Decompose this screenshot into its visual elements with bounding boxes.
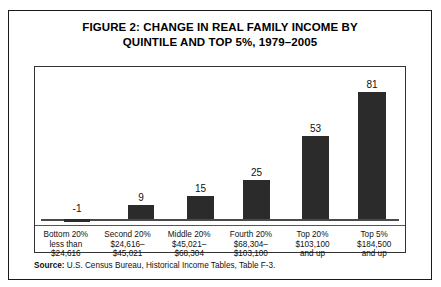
- category-line: $68,304–: [220, 240, 282, 250]
- category-line: $103,100: [282, 240, 344, 250]
- category-line: less than: [35, 240, 97, 250]
- category-label-top-20: Top 20% $103,100 and up: [282, 230, 344, 259]
- category-line: $103,100: [220, 249, 282, 259]
- figure-title-line-2: QUINTILE AND TOP 5%, 1979–2005: [9, 35, 431, 50]
- category-line: $24,616–: [97, 240, 159, 250]
- category-label-band: Bottom 20% less than $24,616 Second 20% …: [35, 226, 405, 252]
- bar-value-middle-20: 15: [187, 183, 214, 194]
- source-note: Source: U.S. Census Bureau, Historical I…: [34, 260, 275, 271]
- category-line: and up: [343, 249, 405, 259]
- bar-top-5: [358, 92, 386, 219]
- category-line: $184,500: [343, 240, 405, 250]
- figure-title: FIGURE 2: CHANGE IN REAL FAMILY INCOME B…: [9, 20, 431, 50]
- bar-middle-20: [187, 196, 214, 219]
- bar-value-top-20: 53: [302, 123, 329, 134]
- source-label: Source:: [34, 261, 64, 270]
- bar-bottom-20: [64, 219, 90, 222]
- category-line: Bottom 20%: [35, 230, 97, 240]
- category-line: $45,021: [97, 249, 159, 259]
- category-label-top-5: Top 5% $184,500 and up: [343, 230, 405, 259]
- source-text: U.S. Census Bureau, Historical Income Ta…: [64, 261, 275, 270]
- bar-value-bottom-20: -1: [64, 203, 90, 214]
- bar-top-20: [302, 136, 329, 219]
- plot-frame: -1 9 15 25 53 81 Bottom 20% less than $2…: [34, 66, 406, 253]
- category-line: Fourth 20%: [220, 230, 282, 240]
- bar-fourth-20: [243, 180, 270, 219]
- category-line: Second 20%: [97, 230, 159, 240]
- category-line: $45,021–: [158, 240, 220, 250]
- bar-value-fourth-20: 25: [243, 167, 270, 178]
- x-axis-baseline: [41, 219, 399, 221]
- bar-second-20: [128, 205, 154, 219]
- category-line: $24,616: [35, 249, 97, 259]
- category-line: Top 5%: [343, 230, 405, 240]
- category-label-middle-20: Middle 20% $45,021– $68,304: [158, 230, 220, 259]
- category-label-fourth-20: Fourth 20% $68,304– $103,100: [220, 230, 282, 259]
- plot-area: -1 9 15 25 53 81: [35, 67, 405, 222]
- category-line: $68,304: [158, 249, 220, 259]
- category-line: and up: [282, 249, 344, 259]
- category-line: Middle 20%: [158, 230, 220, 240]
- category-line: Top 20%: [282, 230, 344, 240]
- category-label-second-20: Second 20% $24,616– $45,021: [97, 230, 159, 259]
- figure-container: FIGURE 2: CHANGE IN REAL FAMILY INCOME B…: [8, 10, 432, 280]
- bar-value-top-5: 81: [358, 79, 386, 90]
- category-label-bottom-20: Bottom 20% less than $24,616: [35, 230, 97, 259]
- figure-title-line-1: FIGURE 2: CHANGE IN REAL FAMILY INCOME B…: [9, 20, 431, 35]
- bar-value-second-20: 9: [128, 192, 154, 203]
